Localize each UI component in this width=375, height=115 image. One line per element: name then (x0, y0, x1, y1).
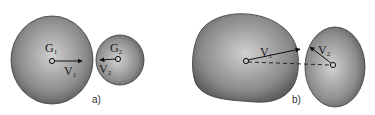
caption-a: a) (92, 94, 101, 105)
body-g1 (11, 16, 93, 104)
panel-a: G1 G2 V1 V2 a) (11, 16, 144, 105)
collision-diagram: G1 G2 V1 V2 a) V1 V2 b) (0, 0, 375, 115)
panel-b: V1 V2 b) (193, 14, 365, 107)
caption-b: b) (292, 94, 301, 105)
